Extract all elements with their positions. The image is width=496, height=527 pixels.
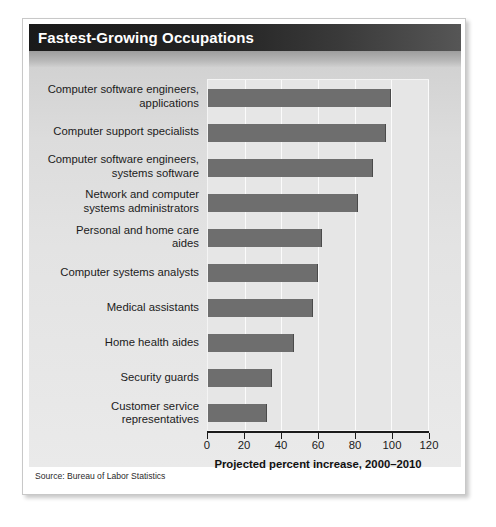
category-label-text: Medical assistants [107,301,199,315]
page-title: Fastest-Growing Occupations [29,29,254,46]
category-label-text: Customer servicerepresentatives [111,400,199,428]
bar [208,299,313,317]
bar-row [208,80,428,115]
bar-row [208,395,428,430]
gridline [428,80,429,430]
category-label: Security guards [31,361,203,396]
category-label-text: Computer support specialists [53,125,199,139]
x-axis-tick-label: 80 [349,439,362,451]
category-label: Computer support specialists [31,114,203,149]
category-label-text: Computer software engineers,systems soft… [48,153,199,181]
bar-row [208,290,428,325]
category-label-text: Computer systems analysts [60,266,199,280]
chart-figure: Fastest-Growing Occupations Computer sof… [22,18,466,495]
bar [208,159,373,177]
bar-row [208,115,428,150]
bar [208,89,391,107]
category-label-text: Security guards [121,371,200,385]
bar-row [208,255,428,290]
x-axis-tick-labels: 020406080100120 [207,439,429,455]
bar [208,404,267,422]
bar-row [208,325,428,360]
bar [208,229,322,247]
category-label-text: Personal and home careaides [76,224,199,252]
category-label-text: Network and computersystems administrato… [83,188,199,216]
bar [208,369,272,387]
bar [208,264,318,282]
category-label-text: Computer software engineers,applications [48,83,199,111]
category-axis-labels: Computer software engineers,applications… [31,79,203,431]
x-axis-tick-label: 20 [238,439,251,451]
page-root: Fastest-Growing Occupations Computer sof… [0,0,496,527]
category-label-text: Home health aides [105,336,199,350]
category-label: Computer software engineers,systems soft… [31,149,203,184]
x-axis-tick-label: 0 [204,439,210,451]
bar-row [208,220,428,255]
category-label: Medical assistants [31,290,203,325]
category-label: Home health aides [31,325,203,360]
category-label: Personal and home careaides [31,220,203,255]
figure-title-bar: Fastest-Growing Occupations [29,24,461,51]
bar-row [208,360,428,395]
category-label: Computer software engineers,applications [31,79,203,114]
bar-row [208,185,428,220]
source-note: Source: Bureau of Labor Statistics [35,471,165,481]
category-label: Customer servicerepresentatives [31,396,203,431]
title-underbar [29,51,461,67]
x-axis-title: Projected percent increase, 2000–2010 [207,458,429,470]
x-axis-tick-label: 40 [275,439,288,451]
bar [208,124,386,142]
x-axis-tick-label: 60 [312,439,325,451]
bar [208,334,294,352]
bar [208,194,358,212]
plot-area [207,79,429,431]
x-axis-tick-label: 100 [383,439,402,451]
chart-body: Computer software engineers,applications… [29,67,461,467]
bar-series [208,80,428,430]
category-label: Network and computersystems administrato… [31,185,203,220]
category-label: Computer systems analysts [31,255,203,290]
bar-row [208,150,428,185]
x-axis-tick-label: 120 [420,439,439,451]
chart-inner: Computer software engineers,applications… [29,67,461,467]
